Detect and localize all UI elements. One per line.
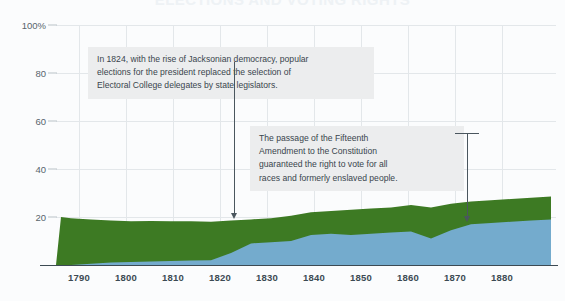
y-tick-label-1: 80 (0, 68, 46, 79)
x-tick-label-1870: 1870 (444, 272, 466, 283)
y-tick-label-3: 40 (0, 164, 46, 175)
x-tick-label-1850: 1850 (350, 272, 372, 283)
annotation-1-leader-line (234, 62, 235, 215)
x-tick-label-1860: 1860 (397, 272, 419, 283)
y-tick-mark-3 (48, 169, 57, 170)
y-tick-mark-1 (48, 73, 57, 74)
x-tick-label-1810: 1810 (162, 272, 184, 283)
x-tick-label-1830: 1830 (256, 272, 278, 283)
y-tick-mark-4 (48, 217, 57, 218)
y-tick-label-2: 60 (0, 116, 46, 127)
y-tick-label-4: 20 (0, 212, 46, 223)
x-axis-line (40, 265, 558, 266)
annotation-fifteenth-amendment: The passage of the Fifteenth Amendment t… (250, 126, 464, 191)
x-tick-label-1820: 1820 (209, 272, 231, 283)
area-chart: 100% 80 60 40 20 1790 1800 1810 1820 183… (0, 0, 565, 301)
annotation-1-arrow-icon (231, 213, 237, 219)
y-tick-mark-0 (48, 25, 57, 26)
x-tick-label-1840: 1840 (303, 272, 325, 283)
annotation-2-leader-line (467, 133, 468, 218)
x-tick-label-1880: 1880 (491, 272, 513, 283)
x-tick-label-1800: 1800 (115, 272, 137, 283)
x-tick-label-1790: 1790 (68, 272, 90, 283)
annotation-2-arrow-icon (464, 216, 470, 222)
y-tick-label-0: 100% (0, 20, 46, 31)
annotation-jacksonian-democracy: In 1824, with the rise of Jacksonian dem… (88, 47, 374, 99)
y-tick-mark-2 (48, 121, 57, 122)
